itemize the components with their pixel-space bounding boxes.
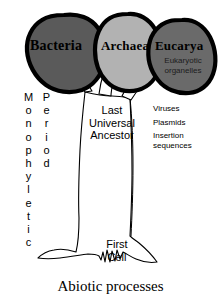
vertical-letter: d [40,157,53,170]
vertical-label-period: Period [40,91,53,170]
annotation-item: Insertion sequences [153,131,213,150]
vertical-letter: e [40,104,53,117]
vertical-letter: l [22,183,35,196]
domain-label-eucarya: Eucarya [155,38,203,54]
diagram-canvas: Bacteria Archaea Eucarya Eukaryotic orga… [0,0,221,307]
annotation-item: Viruses [153,104,213,114]
mobile-genetic-elements-list: VirusesPlasmidsInsertion sequences [153,104,213,150]
first-cell-label: First Cell [93,238,141,263]
abiotic-processes-label: Abiotic processes [0,278,221,295]
vertical-letter: r [40,117,53,130]
vertical-letter: e [22,197,35,210]
vertical-letter: h [22,157,35,170]
eukaryotic-organelles-label: Eukaryotic organelles [152,56,214,75]
vertical-letter: c [22,236,35,249]
vertical-letter: M [22,91,35,104]
vertical-letter: i [22,223,35,236]
vertical-letter: o [22,131,35,144]
vertical-letter: P [40,91,53,104]
vertical-letter: o [40,144,53,157]
domain-label-bacteria: Bacteria [30,38,82,54]
vertical-letter: n [22,117,35,130]
vertical-letter: o [22,104,35,117]
vertical-letter: i [40,131,53,144]
vertical-label-monophyletic: Monophyletic [22,91,35,249]
vertical-letter: t [22,210,35,223]
vertical-letter: p [22,144,35,157]
last-universal-ancestor-label: Last Universal Ancestor [76,104,148,142]
domain-label-archaea: Archaea [101,38,149,54]
annotation-item: Plasmids [153,118,213,128]
vertical-letter: y [22,170,35,183]
